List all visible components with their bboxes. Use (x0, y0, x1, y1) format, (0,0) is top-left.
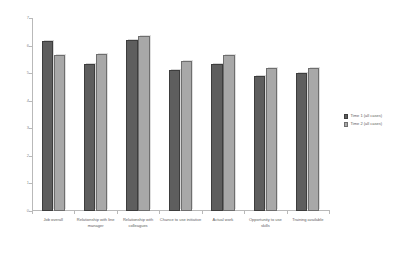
bar-group (84, 18, 107, 211)
legend-swatch-icon (344, 122, 348, 126)
legend-item: Time 2 (all cases) (344, 122, 399, 127)
bar (266, 68, 277, 211)
y-axis-line (32, 18, 33, 211)
x-tick-mark (32, 210, 33, 214)
bar (223, 55, 234, 211)
y-tick-mark (29, 101, 33, 102)
legend-swatch-icon (344, 114, 348, 118)
x-tick-mark (244, 210, 245, 214)
y-tick-mark (29, 156, 33, 157)
bar (96, 54, 107, 211)
x-axis-label: Job overall (32, 217, 74, 223)
bar (254, 76, 265, 211)
y-tick-mark (29, 128, 33, 129)
x-axis-label: Relationship with colleagues (117, 217, 159, 229)
y-tick-mark (29, 46, 33, 47)
chart-canvas: 01234567 Job overallRelationship with li… (0, 0, 399, 259)
bar-group (126, 18, 149, 211)
x-tick-mark (159, 210, 160, 214)
y-tick-label: 1 (27, 181, 29, 185)
y-tick-mark (29, 18, 33, 19)
legend-label: Time 2 (all cases) (351, 122, 382, 127)
y-tick-label: 7 (27, 16, 29, 20)
bar (54, 55, 65, 211)
bar (181, 61, 192, 211)
x-tick-mark (287, 210, 288, 214)
bar (138, 36, 149, 211)
y-tick-mark (29, 183, 33, 184)
legend-item: Time 1 (all cases) (344, 114, 399, 119)
bar (42, 41, 53, 211)
bar (296, 73, 307, 211)
x-axis-label: Training available (287, 217, 329, 223)
y-tick-label: 0 (27, 209, 29, 213)
legend-label: Time 1 (all cases) (351, 114, 382, 119)
y-tick-mark (29, 73, 33, 74)
bar (308, 68, 319, 211)
bar-group (254, 18, 277, 211)
bar-group (42, 18, 65, 211)
bar (126, 40, 137, 211)
x-axis-label: Relationship with line manager (74, 217, 116, 229)
x-tick-mark (329, 210, 330, 214)
bar (211, 64, 222, 212)
bar (169, 70, 180, 211)
y-tick-label: 5 (27, 71, 29, 75)
chart-legend: Time 1 (all cases)Time 2 (all cases) (344, 114, 399, 130)
bar-group (296, 18, 319, 211)
bar-group (169, 18, 192, 211)
x-tick-mark (117, 210, 118, 214)
x-axis-label: Opportunity to use skills (244, 217, 286, 229)
y-tick-label: 4 (27, 99, 29, 103)
y-tick-label: 3 (27, 126, 29, 130)
x-tick-mark (74, 210, 75, 214)
bar-group (211, 18, 234, 211)
x-axis-label: Chance to use initiative (159, 217, 201, 223)
y-tick-label: 2 (27, 154, 29, 158)
x-axis-label: Actual work (202, 217, 244, 223)
x-tick-mark (202, 210, 203, 214)
plot-area: 01234567 (32, 18, 329, 211)
y-tick-label: 6 (27, 44, 29, 48)
bar (84, 64, 95, 212)
